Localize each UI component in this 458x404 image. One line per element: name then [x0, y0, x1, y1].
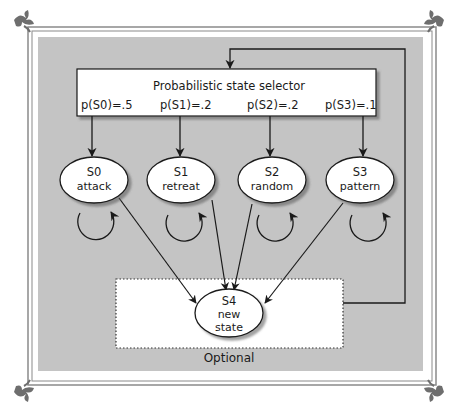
probability-s3: p(S3)=.1 — [325, 98, 377, 112]
corner-ornament-top-right-icon — [424, 10, 444, 32]
state-id: S2 — [265, 165, 280, 179]
state-name: random — [251, 180, 294, 193]
state-node-s3: S3 pattern — [326, 157, 394, 203]
state-name-line2: state — [215, 321, 243, 334]
probabilistic-state-selector: Probabilistic state selector p(S0)=.5 p(… — [77, 69, 377, 116]
optional-label: Optional — [204, 351, 255, 365]
state-node-s0: S0 attack — [60, 157, 128, 203]
probability-s2: p(S2)=.2 — [247, 98, 299, 112]
probability-s0: p(S0)=.5 — [81, 98, 133, 112]
corner-ornament-bottom-left-icon — [14, 380, 34, 402]
corner-ornament-top-left-icon — [14, 10, 34, 32]
state-id: S4 — [222, 294, 237, 308]
probability-s1: p(S1)=.2 — [160, 98, 212, 112]
selector-title: Probabilistic state selector — [153, 79, 305, 93]
state-selector-diagram: Probabilistic state selector p(S0)=.5 p(… — [0, 0, 458, 404]
state-node-s4: S4 new state — [195, 289, 263, 337]
state-name-line1: new — [218, 308, 241, 321]
corner-ornament-bottom-right-icon — [424, 380, 444, 402]
state-id: S1 — [174, 165, 189, 179]
state-node-s1: S1 retreat — [147, 157, 215, 203]
state-name: pattern — [340, 180, 380, 193]
state-id: S0 — [87, 165, 102, 179]
state-name: retreat — [162, 180, 200, 193]
state-node-s2: S2 random — [238, 157, 306, 203]
state-name: attack — [77, 180, 112, 193]
state-id: S3 — [353, 165, 368, 179]
